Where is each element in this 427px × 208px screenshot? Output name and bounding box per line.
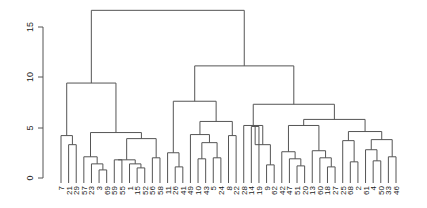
y-tick-5: 5 bbox=[25, 125, 35, 130]
y-tick-10: 10 bbox=[25, 72, 35, 82]
y-tick-15: 15 bbox=[25, 22, 35, 32]
leaf-label: 46 bbox=[392, 185, 401, 194]
dendrogram-chart: 0 5 10 15 721295723369595511552565811264… bbox=[0, 0, 427, 208]
dendrogram-svg: 0 5 10 15 721295723369595511552565811264… bbox=[0, 0, 427, 208]
y-axis bbox=[38, 27, 43, 178]
dendrogram-branches bbox=[61, 10, 396, 183]
leaf-labels: 7212957233695955115525658112641491043524… bbox=[57, 185, 401, 194]
y-tick-labels: 0 5 10 15 bbox=[25, 22, 35, 181]
y-tick-0: 0 bbox=[25, 175, 35, 180]
